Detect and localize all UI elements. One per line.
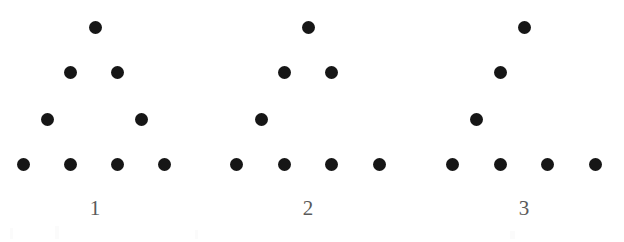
dot-figure-3: 3 [0,0,624,242]
dot [494,158,507,171]
scan-artifact [55,226,59,239]
scan-artifact [510,231,515,239]
figure-label-3: 3 [519,198,530,219]
dot [494,66,507,79]
dot [589,158,602,171]
dot [541,158,554,171]
scan-artifact [10,228,13,239]
dot [470,113,483,126]
dot [518,21,531,34]
figure-canvas: 123 [0,0,624,242]
dot [446,158,459,171]
scan-artifact [195,230,198,239]
